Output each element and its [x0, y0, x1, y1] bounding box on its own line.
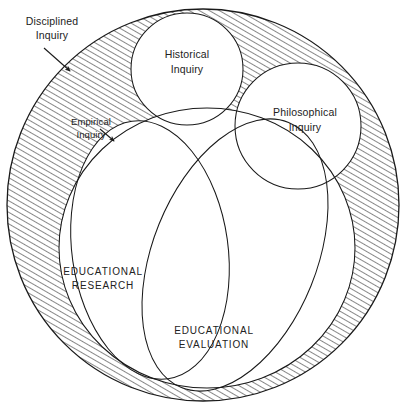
philosophical-inquiry-label-line1: Philosophical — [273, 106, 337, 118]
educational-evaluation-label-line1: EDUCATIONAL — [174, 325, 254, 336]
euler-diagram-canvas: Disciplined Inquiry Empirical Inquiry Hi… — [0, 0, 407, 418]
educational-evaluation-label-line2: EVALUATION — [179, 339, 249, 350]
philosophical-inquiry-label-line2: Inquiry — [289, 121, 322, 133]
historical-inquiry-label-line1: Historical — [165, 48, 210, 60]
disciplined-inquiry-label-line1: Disciplined — [26, 15, 78, 27]
historical-inquiry-label-line2: Inquiry — [171, 63, 204, 75]
educational-research-label-line1: EDUCATIONAL — [63, 266, 143, 277]
disciplined-inquiry-label-line2: Inquiry — [36, 29, 69, 41]
diagram-root: Disciplined Inquiry Empirical Inquiry Hi… — [0, 0, 407, 418]
empirical-inquiry-label-line1: Empirical — [71, 116, 111, 127]
educational-research-label-line2: RESEARCH — [72, 280, 134, 291]
